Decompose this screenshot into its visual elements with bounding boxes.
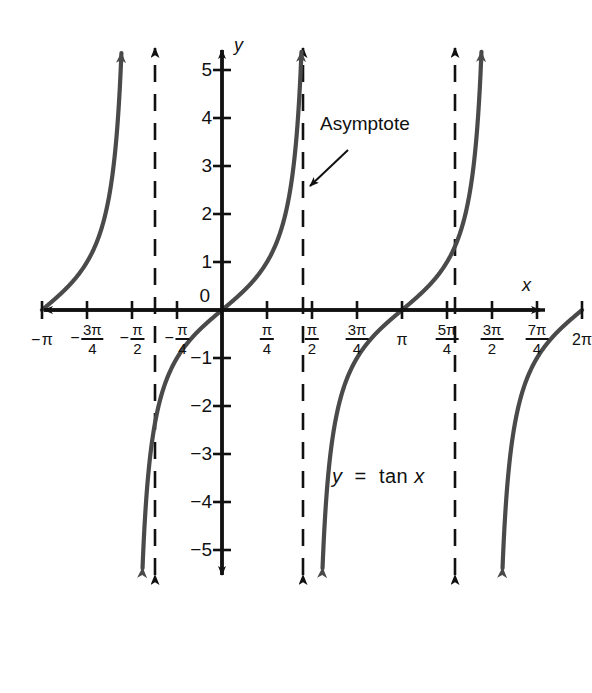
x-tick-label: − π	[31, 332, 53, 348]
x-tick-label: π	[396, 332, 407, 348]
y-tick-label: 0	[190, 286, 210, 305]
x-tick-label: 3π2	[481, 322, 504, 356]
fraction: π2	[305, 322, 319, 356]
x-tick-label: π4	[260, 322, 274, 356]
fraction-numerator: π	[175, 322, 189, 337]
fraction-numerator: π	[305, 322, 319, 337]
x-tick-label: 5π4	[436, 322, 459, 356]
tick-text: 2π	[572, 331, 592, 348]
fraction-numerator: π	[260, 322, 274, 337]
y-tick-label: −3	[168, 444, 212, 463]
tangent-branch-3-upper	[402, 52, 481, 310]
x-tick-label: − 3π4	[70, 322, 103, 356]
fraction: 3π2	[481, 322, 504, 356]
fraction: π4	[260, 322, 274, 356]
tangent-graph-figure: − π− 3π4− π2− π4π4π23π4π5π43π27π42π 5432…	[0, 0, 592, 693]
tick-text: π	[42, 331, 53, 348]
minus-sign: −	[119, 329, 130, 346]
axes-group	[42, 50, 582, 575]
fraction: 3π4	[346, 322, 369, 356]
minus-sign: −	[164, 329, 175, 346]
y-tick-label: −4	[168, 492, 212, 511]
fraction: 5π4	[436, 322, 459, 356]
fraction: π2	[130, 322, 144, 356]
y-tick-label: 3	[193, 156, 212, 175]
tangent-branch-1	[42, 53, 121, 310]
fraction: 3π4	[81, 322, 104, 356]
minus-sign: −	[70, 329, 81, 346]
fraction-numerator: 3π	[81, 322, 104, 337]
fraction-numerator: 3π	[481, 322, 504, 337]
y-tick-label: −5	[168, 540, 212, 559]
x-axis-label: x	[522, 276, 531, 294]
asymptote-pointer	[310, 150, 348, 186]
asymptote-arrow-line	[310, 150, 348, 186]
tangent-branch-2-upper	[222, 52, 301, 310]
y-tick-label: −2	[168, 396, 212, 415]
tick-text: π	[396, 331, 407, 348]
asymptote-annotation: Asymptote	[320, 114, 410, 133]
x-tick-label: 7π4	[526, 322, 549, 356]
equation-body: = tan	[349, 465, 415, 487]
fraction-denominator: 4	[81, 341, 104, 356]
equation-label: y = tan x	[332, 466, 425, 486]
fraction-numerator: π	[130, 322, 144, 337]
y-axis-label: y	[234, 36, 243, 54]
fraction-denominator: 4	[260, 341, 274, 356]
fraction-denominator: 2	[130, 341, 144, 356]
fraction-denominator: 4	[526, 341, 549, 356]
fraction-denominator: 2	[481, 341, 504, 356]
fraction-numerator: 3π	[346, 322, 369, 337]
fraction-denominator: 4	[346, 341, 369, 356]
x-tick-label: 3π4	[346, 322, 369, 356]
y-tick-label: 4	[193, 108, 212, 127]
minus-sign: −	[31, 331, 42, 348]
fraction-numerator: 5π	[436, 322, 459, 337]
fraction-numerator: 7π	[526, 322, 549, 337]
equation-x-symbol: x	[414, 465, 425, 487]
x-tick-label: 2π	[572, 332, 592, 348]
equation-y-symbol: y	[332, 465, 343, 487]
fraction-denominator: 2	[305, 341, 319, 356]
x-tick-label: − π2	[119, 322, 144, 356]
y-tick-label: 1	[193, 252, 212, 271]
y-tick-label: −1	[168, 348, 212, 367]
y-tick-label: 2	[193, 204, 212, 223]
fraction: 7π4	[526, 322, 549, 356]
y-tick-label: 5	[193, 60, 212, 79]
x-tick-label: π2	[305, 322, 319, 356]
fraction-denominator: 4	[436, 341, 459, 356]
